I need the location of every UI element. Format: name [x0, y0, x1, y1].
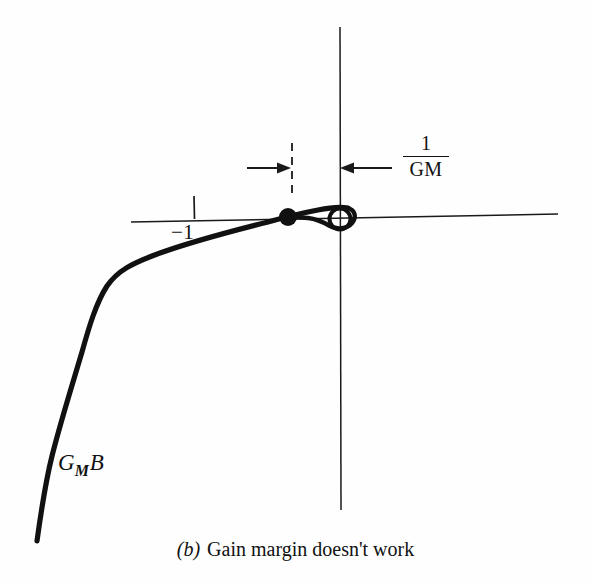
imaginary-axis	[340, 27, 341, 510]
curve-label-base: G	[58, 450, 75, 475]
figure-caption: (b)Gain margin doesn't work	[0, 538, 591, 561]
gain-margin-span-arrowhead	[277, 163, 291, 174]
one-over-gm-label: 1 GM	[395, 133, 457, 180]
tick-minus-one	[194, 196, 195, 219]
nyquist-curve-main	[37, 207, 348, 541]
critical-point-marker	[279, 208, 297, 226]
nyquist-plot	[0, 0, 591, 582]
curve-label-subscript: M	[75, 462, 89, 479]
gm-fraction-bar	[403, 156, 449, 157]
gm-fraction-denominator: GM	[395, 158, 457, 180]
gm-fraction-numerator: 1	[395, 133, 457, 155]
curve-label-tail: B	[89, 450, 104, 475]
tick-label-minus-one: −1	[171, 222, 194, 243]
caption-text: Gain margin doesn't work	[200, 538, 414, 560]
curve-label-gmb: GMB	[58, 451, 104, 479]
one-over-gm-arrowhead	[340, 163, 354, 174]
figure-container: −1 GMB 1 GM (b)Gain margin doesn't work	[0, 0, 591, 582]
caption-tag: (b)	[177, 538, 200, 560]
